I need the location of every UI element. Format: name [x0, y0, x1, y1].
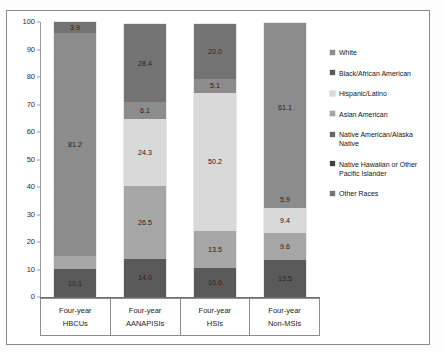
bar-segment[interactable]: 9.4 — [264, 208, 306, 234]
x-axis-category-label: Four-year — [199, 307, 232, 315]
bar-segment[interactable]: 28.4 — [124, 24, 166, 102]
bar-segment[interactable] — [54, 256, 96, 269]
bar-segment[interactable]: 24.3 — [124, 119, 166, 186]
legend-item[interactable]: Native Hawaiian or Other Pacific Islande… — [330, 160, 434, 178]
legend-swatch-icon — [330, 191, 335, 196]
x-axis-category-label: HSIs — [207, 320, 223, 328]
bar-segment[interactable]: 20.0 — [194, 24, 236, 79]
bar-segment-value-label: 26.5 — [138, 219, 152, 226]
bar-group: 10.181.23.914.026.524.36.128.410.613.550… — [40, 22, 320, 297]
x-axis-category-label: Four-year — [129, 307, 162, 315]
bar-segment[interactable]: 81.2 — [54, 33, 96, 256]
y-tick-label: 20 — [27, 238, 35, 246]
bar-segment-value-label: 13.5 — [278, 275, 292, 282]
bar-segment-value-label: 81.2 — [68, 141, 82, 148]
bar-slot: 13.59.69.45.961.1 — [250, 22, 320, 297]
y-tick-label: 10 — [27, 266, 35, 274]
legend-item[interactable]: Black/African American — [330, 69, 434, 78]
legend-item-label: Hispanic/Latino — [339, 89, 387, 98]
legend-swatch-icon — [330, 70, 335, 75]
bar-segment[interactable]: 3.9 — [54, 22, 96, 33]
legend-item-label: White — [339, 48, 357, 57]
bar-segment-value-label: 5.1 — [210, 82, 220, 89]
x-axis-category-label: Four-year — [268, 307, 301, 315]
bar-segment[interactable]: 13.5 — [264, 260, 306, 297]
x-axis-category: Four-yearHBCUs — [40, 298, 111, 336]
x-axis-category-row: Four-yearHBCUsFour-yearAANAPISIsFour-yea… — [40, 298, 320, 336]
legend-swatch-icon — [330, 111, 335, 116]
bar-segment-value-label: 9.4 — [280, 217, 290, 224]
bar-segment-value-label: 5.9 — [280, 196, 290, 203]
bar-segment-value-label: 50.2 — [208, 158, 222, 165]
y-tick-label: 40 — [27, 183, 35, 191]
bar-segment[interactable]: 13.5 — [194, 231, 236, 268]
bar-segment-value-label: 20.0 — [208, 48, 222, 55]
bar-segment[interactable]: 6.1 — [124, 102, 166, 119]
bar-segment[interactable]: 5.1 — [194, 79, 236, 93]
chart-legend: WhiteBlack/African AmericanHispanic/Lati… — [330, 48, 434, 210]
x-axis-category: Four-yearNon-MSIs — [250, 298, 320, 336]
bar-segment-value-label: 6.1 — [140, 107, 150, 114]
bar-segment-value-label: 10.1 — [68, 280, 82, 287]
legend-item-label: Asian American — [339, 110, 388, 119]
legend-item[interactable]: White — [330, 48, 434, 57]
y-tick-label: 90 — [27, 46, 35, 54]
y-tick-label: 30 — [27, 211, 35, 219]
legend-swatch-icon — [330, 161, 335, 166]
bar-segment[interactable]: 9.6 — [264, 233, 306, 259]
bar-segment-value-label: 3.9 — [70, 24, 80, 31]
legend-swatch-icon — [330, 132, 335, 137]
legend-item[interactable]: Native American/Alaska Native — [330, 130, 434, 148]
y-tick-label: 100 — [22, 18, 35, 26]
bar-segment-value-label: 24.3 — [138, 149, 152, 156]
bar-segment-value-label: 14.0 — [138, 274, 152, 281]
bar-segment[interactable]: 10.6 — [194, 268, 236, 297]
stacked-bar[interactable]: 10.181.23.9 — [54, 22, 96, 297]
legend-item-label: Other Races — [339, 189, 378, 198]
bar-segment-value-label: 9.6 — [280, 243, 290, 250]
bar-segment[interactable]: 61.1 — [264, 23, 306, 191]
stacked-bar-chart: 0102030405060708090100 10.181.23.914.026… — [0, 0, 444, 352]
legend-item[interactable]: Hispanic/Latino — [330, 89, 434, 98]
bar-slot: 10.181.23.9 — [40, 22, 110, 297]
x-axis-category-label: HBCUs — [63, 320, 88, 328]
bar-segment[interactable]: 10.1 — [54, 269, 96, 297]
x-axis-category: Four-yearAANAPISIs — [111, 298, 181, 336]
bar-segment-value-label: 28.4 — [138, 60, 152, 67]
stacked-bar[interactable]: 10.613.550.25.120.0 — [194, 24, 236, 297]
y-tick-label: 70 — [27, 101, 35, 109]
x-axis-category: Four-yearHSIs — [181, 298, 251, 336]
bar-segment[interactable]: 50.2 — [194, 93, 236, 231]
legend-item-label: Native American/Alaska Native — [339, 130, 434, 148]
legend-swatch-icon — [330, 50, 335, 55]
stacked-bar[interactable]: 13.59.69.45.961.1 — [264, 23, 306, 297]
bar-slot: 10.613.550.25.120.0 — [180, 22, 250, 297]
bar-segment[interactable]: 14.0 — [124, 259, 166, 298]
x-axis-category-label: AANAPISIs — [126, 320, 164, 328]
bar-slot: 14.026.524.36.128.4 — [110, 22, 180, 297]
y-tick-label: 50 — [27, 156, 35, 164]
bar-segment-value-label: 10.6 — [208, 279, 222, 286]
y-tick-label: 0 — [31, 293, 35, 301]
x-axis-category-label: Non-MSIs — [268, 320, 301, 328]
legend-item-label: Black/African American — [339, 69, 411, 78]
x-axis-category-label: Four-year — [59, 307, 92, 315]
bar-segment[interactable]: 26.5 — [124, 186, 166, 259]
legend-swatch-icon — [330, 91, 335, 96]
y-tick-label: 60 — [27, 128, 35, 136]
legend-item[interactable]: Asian American — [330, 110, 434, 119]
bar-segment-value-label: 61.1 — [278, 104, 292, 111]
legend-item[interactable]: Other Races — [330, 189, 434, 198]
bar-segment-value-label: 13.5 — [208, 246, 222, 253]
y-tick-label: 80 — [27, 73, 35, 81]
legend-item-label: Native Hawaiian or Other Pacific Islande… — [339, 160, 434, 178]
bar-segment[interactable]: 5.9 — [264, 191, 306, 207]
stacked-bar[interactable]: 14.026.524.36.128.4 — [124, 24, 166, 297]
